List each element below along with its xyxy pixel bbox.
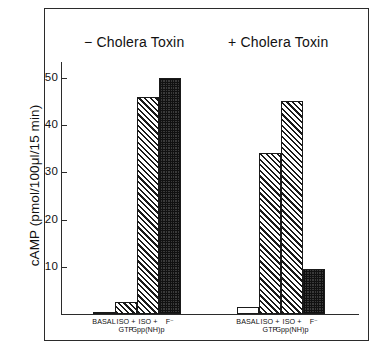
bars-layer (0, 0, 380, 315)
x-tick-label-g1-0: BASAL (236, 318, 259, 335)
x-tick-label-g0-3: F⁻ (166, 318, 175, 335)
bar-g0-f (159, 78, 181, 314)
bar-g1-basal (237, 307, 259, 314)
bar-g1-iso-gtp (259, 153, 281, 314)
x-tick-label-g0-2: ISO +Gpp(NH)p (131, 318, 164, 335)
x-tick-label-g1-2: ISO +Gpp(NH)p (275, 318, 308, 335)
x-tick-label-g0-0: BASAL (92, 318, 115, 335)
x-tick-label-g1-3: F⁻ (310, 318, 319, 335)
bar-g1-iso-gpp-nh-p (281, 101, 303, 314)
bar-g0-iso-gtp (115, 302, 137, 314)
bar-g1-f (303, 269, 325, 314)
figure: − Cholera Toxin + Cholera Toxin cAMP (pm… (0, 0, 380, 349)
bar-g0-basal (93, 312, 115, 314)
bar-g0-iso-gpp-nh-p (137, 97, 159, 314)
